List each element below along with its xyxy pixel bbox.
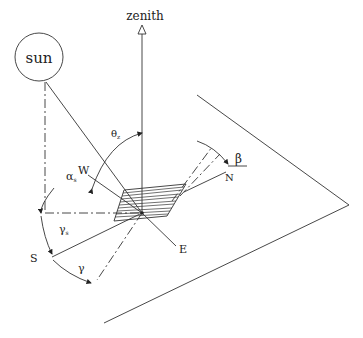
north-label: N bbox=[225, 172, 234, 183]
gamma-arc bbox=[53, 260, 91, 283]
west-axis bbox=[88, 175, 142, 213]
theta-z-arc bbox=[92, 133, 142, 189]
tilt-lines bbox=[172, 147, 220, 201]
sun-icon: sun bbox=[15, 33, 63, 81]
tilted-panel bbox=[114, 184, 186, 221]
ground-plane bbox=[104, 95, 349, 323]
surface-normal-projection bbox=[97, 213, 142, 280]
east-label: E bbox=[179, 243, 187, 256]
zenith-label: zenith bbox=[126, 9, 164, 23]
beta-label: β bbox=[235, 152, 242, 166]
gamma-s-label: γs bbox=[59, 223, 69, 236]
theta-z-label: θz bbox=[111, 128, 120, 140]
sun-ray bbox=[46, 82, 142, 213]
west-label: W bbox=[78, 164, 90, 177]
south-label: S bbox=[30, 252, 38, 265]
zenith-axis: zenith bbox=[126, 9, 164, 213]
north-axis bbox=[184, 172, 226, 192]
zenith-arrow-icon bbox=[138, 25, 146, 34]
gamma-label: γ bbox=[78, 262, 85, 275]
sun-label: sun bbox=[25, 49, 52, 67]
alpha-s-label: αs bbox=[66, 170, 77, 183]
beta-arc bbox=[197, 141, 228, 164]
solar-angle-diagram: sun zenith bbox=[0, 0, 363, 338]
gamma-s-arc bbox=[41, 216, 52, 254]
alpha-s-arc bbox=[41, 188, 54, 213]
